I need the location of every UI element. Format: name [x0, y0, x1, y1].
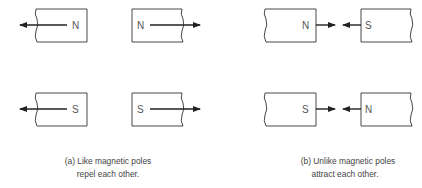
- panel-a-row2-left-magnet: S: [20, 93, 87, 126]
- panel-b-caption-line2: attract each other.: [311, 169, 378, 179]
- panel-a-caption-line1: (a) Like magnetic poles: [65, 156, 152, 166]
- panel-a-caption-line2: repel each other.: [77, 169, 139, 179]
- magnetic-poles-diagram: N N S S N S S N (a) Like magnetic poles: [0, 0, 422, 188]
- pole-label: N: [72, 20, 79, 31]
- pole-label: N: [137, 20, 144, 31]
- pole-label: N: [302, 20, 309, 31]
- pole-label: S: [137, 104, 144, 115]
- pole-label: S: [72, 104, 79, 115]
- panel-b-row2-left-magnet: S: [264, 93, 335, 126]
- panel-b-row1-right-magnet: S: [343, 9, 413, 42]
- panel-a-row1-right-magnet: N: [132, 9, 200, 42]
- panel-a-row2-right-magnet: S: [132, 93, 200, 126]
- panel-b-caption-line1: (b) Unlike magnetic poles: [301, 156, 396, 166]
- panel-b-row1-left-magnet: N: [264, 9, 335, 42]
- pole-label: S: [365, 20, 372, 31]
- panel-a-row1-left-magnet: N: [20, 9, 87, 42]
- pole-label: S: [302, 104, 309, 115]
- panel-b-row2-right-magnet: N: [343, 93, 413, 126]
- pole-label: N: [365, 104, 372, 115]
